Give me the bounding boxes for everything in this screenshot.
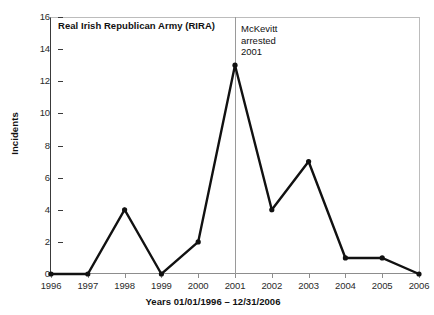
data-point xyxy=(196,239,201,244)
data-point xyxy=(343,255,348,260)
data-point xyxy=(269,207,274,212)
data-point xyxy=(380,255,385,260)
data-point xyxy=(48,271,53,276)
data-point xyxy=(85,271,90,276)
data-point xyxy=(159,271,164,276)
data-point xyxy=(306,159,311,164)
data-point xyxy=(122,207,127,212)
data-point xyxy=(232,63,237,68)
series-line-incidents xyxy=(51,65,419,274)
data-point xyxy=(416,271,421,276)
